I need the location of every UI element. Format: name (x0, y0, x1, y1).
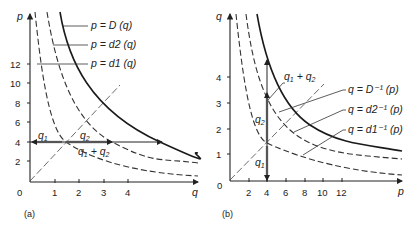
svg-text:1: 1 (52, 187, 57, 198)
svg-text:3: 3 (216, 98, 221, 109)
svg-text:10: 10 (10, 78, 21, 89)
svg-text:4: 4 (264, 187, 269, 198)
svg-text:10: 10 (317, 187, 328, 198)
svg-text:2: 2 (15, 156, 20, 167)
svg-text:8: 8 (302, 187, 307, 198)
curve-label-d2-b: q = d2⁻¹ (p) (348, 103, 403, 115)
curve-label-D-b: q = D⁻¹ (p) (348, 83, 399, 95)
q2-label-b: q2 (255, 113, 265, 126)
panel-label-a: (a) (24, 209, 35, 219)
curve-label-d2-a: p = d2 (q) (90, 38, 136, 50)
y-axis-label-a: p (16, 10, 23, 22)
curve-label-d1-b: q = d1⁻¹ (p) (348, 123, 403, 135)
svg-text:12: 12 (336, 187, 347, 198)
x-axis-label-a: q (192, 186, 198, 198)
svg-text:6: 6 (283, 187, 288, 198)
svg-text:8: 8 (15, 98, 20, 109)
panel-b: q p 0 2 4 6 8 10 12 1 2 3 4 q1 + q2 q = … (216, 10, 404, 219)
panel-a: p q 0 1 2 3 4 2 4 6 8 10 12 p = D (q) p (10, 10, 200, 219)
q2-label-a: q2 (80, 129, 90, 142)
svg-text:4: 4 (216, 72, 221, 83)
svg-text:2: 2 (76, 187, 81, 198)
svg-text:2: 2 (216, 124, 221, 135)
svg-text:1: 1 (216, 149, 221, 160)
origin-label-b: 0 (217, 180, 222, 191)
svg-text:2: 2 (246, 187, 251, 198)
curve-d2-a (47, 12, 198, 163)
y-ticks-a: 2 4 6 8 10 12 (10, 59, 30, 167)
panel-label-b: (b) (222, 209, 233, 219)
x-axis-label-b: p (397, 185, 404, 197)
q1-plus-q2-label-a: q1 + q2 (78, 145, 110, 158)
y-ticks-b: 1 2 3 4 (216, 72, 230, 160)
curve-d1-a (35, 12, 198, 176)
svg-text:4: 4 (15, 137, 20, 148)
q1-label-a: q1 (38, 129, 48, 142)
origin-label-a: 0 (17, 187, 22, 198)
q1-label-b: q1 (255, 156, 265, 169)
diagonal-line-b (230, 84, 324, 180)
y-axis-label-b: q (216, 10, 222, 22)
svg-text:4: 4 (125, 187, 130, 198)
demand-aggregation-figure: p q 0 1 2 3 4 2 4 6 8 10 12 p = D (q) p (0, 0, 417, 231)
svg-text:6: 6 (15, 117, 20, 128)
curve-label-d1-a: p = d1 (q) (90, 57, 136, 69)
svg-text:12: 12 (10, 59, 21, 70)
curve-label-D-a: p = D (q) (90, 19, 132, 31)
svg-text:3: 3 (101, 187, 106, 198)
q1-plus-q2-label-b: q1 + q2 (284, 70, 316, 83)
